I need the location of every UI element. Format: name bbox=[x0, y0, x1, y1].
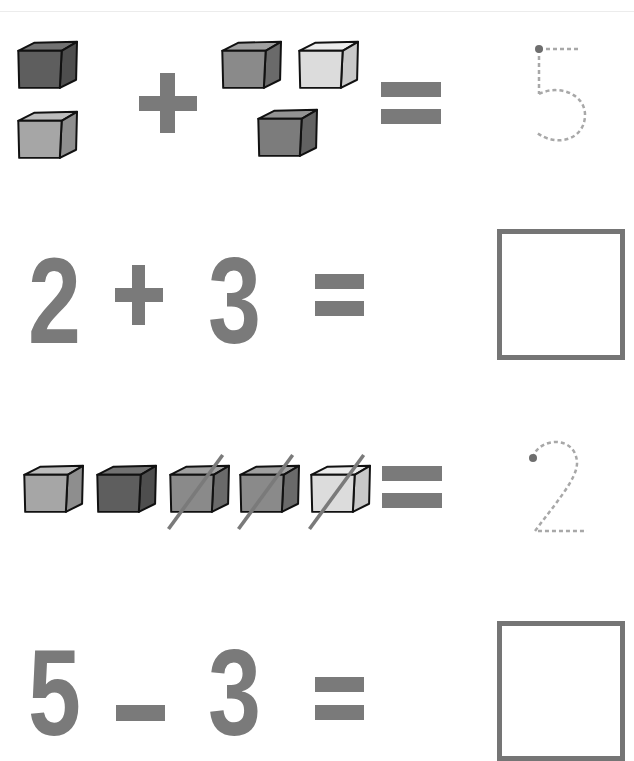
cube-crossed-out-icon bbox=[237, 464, 305, 520]
minus-sign-icon bbox=[116, 705, 165, 722]
addend-right: 3 bbox=[208, 240, 258, 362]
cube-pale-icon bbox=[296, 40, 364, 96]
trace-digit-5[interactable] bbox=[528, 44, 598, 152]
addend-left: 2 bbox=[28, 240, 78, 362]
plus-sign-icon bbox=[115, 265, 163, 325]
cube-light-icon bbox=[15, 110, 83, 166]
answer-box[interactable] bbox=[497, 621, 625, 761]
cube-medium-icon bbox=[219, 40, 287, 96]
trace-digit-2[interactable] bbox=[525, 434, 595, 536]
cube-medium-dark-icon bbox=[255, 108, 323, 164]
equals-sign-icon bbox=[381, 82, 441, 125]
cube-crossed-out-icon bbox=[167, 464, 235, 520]
cube-light-icon bbox=[21, 464, 89, 520]
minuend: 5 bbox=[28, 632, 78, 754]
subtrahend: 3 bbox=[208, 632, 258, 754]
equals-sign-icon bbox=[382, 466, 442, 508]
equals-sign-icon bbox=[315, 274, 364, 316]
cube-dark-icon bbox=[94, 464, 162, 520]
cube-crossed-out-icon bbox=[308, 464, 376, 520]
cube-dark-icon bbox=[15, 40, 83, 96]
equals-sign-icon bbox=[315, 677, 364, 720]
plus-sign-icon bbox=[139, 73, 197, 133]
page-top-divider bbox=[0, 11, 634, 12]
answer-box[interactable] bbox=[497, 229, 625, 360]
